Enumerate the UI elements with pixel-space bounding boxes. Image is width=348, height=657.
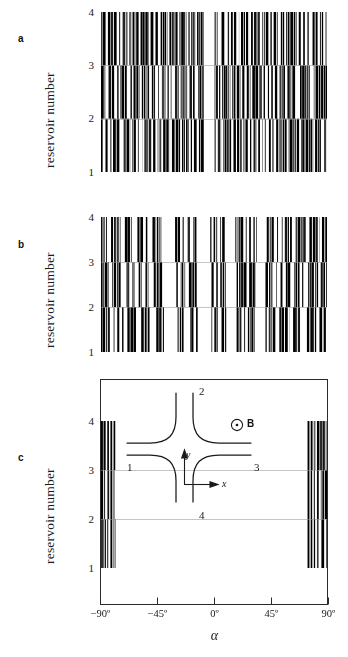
panel-c-xtick-90: 90º	[306, 608, 348, 619]
panel-b-ytick-1: 1	[80, 346, 94, 358]
panel-c-ytick-3: 3	[80, 464, 94, 476]
panel-a-letter: a	[18, 33, 24, 44]
panel-a-ytick-4: 4	[80, 6, 94, 18]
inset-terminal-3-label: 3	[254, 461, 260, 473]
panel-a-ytick-1: 1	[80, 166, 94, 178]
inset-terminal-4-label: 4	[199, 509, 205, 521]
inset-axis-y-label: y	[186, 449, 190, 460]
inset-terminal-1-label: 1	[127, 461, 133, 473]
panel-c-ytick-1: 1	[80, 562, 94, 574]
panel-b-letter: b	[18, 239, 24, 250]
figure-root: a reservoir number 1 2 3 4 b reservoir n…	[0, 0, 348, 657]
inset-terminal-2-label: 2	[199, 385, 205, 397]
panel-c-letter: c	[18, 452, 24, 463]
panel-c-xaxis-ticks	[100, 595, 329, 607]
magnetic-field-label: B	[247, 418, 254, 429]
panel-a-ylabel: reservoir number	[42, 72, 58, 168]
panel-c-xtick-0: 0º	[192, 608, 237, 619]
panel-b-stripe-plot	[101, 217, 327, 352]
panel-c-xtick--45: −45º	[135, 608, 180, 619]
inset-axis-x-label: x	[222, 478, 226, 489]
panel-c-xtick--90: −90º	[78, 608, 123, 619]
panel-c-ytick-2: 2	[80, 513, 94, 525]
panel-b-ytick-2: 2	[80, 301, 94, 313]
panel-b-ytick-4: 4	[80, 211, 94, 223]
panel-a-ytick-2: 2	[80, 112, 94, 124]
panel-a-stripe-plot	[101, 12, 327, 172]
panel-c-ylabel: reservoir number	[42, 468, 58, 564]
panel-c-xtick-45: 45º	[249, 608, 294, 619]
panel-b-ytick-3: 3	[80, 256, 94, 268]
panel-b-ylabel: reservoir number	[42, 252, 58, 348]
panel-c-xlabel: α	[192, 628, 237, 644]
panel-c-ytick-4: 4	[80, 415, 94, 427]
panel-c-stripe-plot	[101, 421, 327, 568]
panel-a-ytick-3: 3	[80, 59, 94, 71]
